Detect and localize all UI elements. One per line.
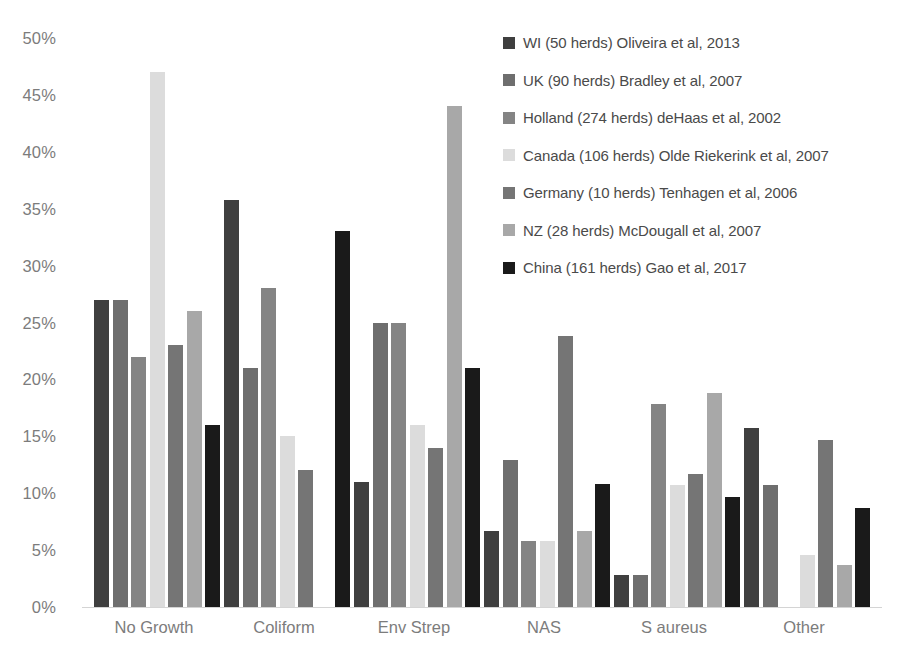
legend-item[interactable]: Holland (274 herds) deHaas et al, 2002	[503, 99, 898, 137]
bar	[725, 497, 740, 607]
legend-item[interactable]: Germany (10 herds) Tenhagen et al, 2006	[503, 174, 898, 212]
bar	[205, 425, 220, 607]
y-axis-tick-label: 45%	[22, 85, 56, 104]
bar	[837, 565, 852, 607]
legend-item[interactable]: WI (50 herds) Oliveira et al, 2013	[503, 24, 898, 62]
bar	[651, 404, 666, 607]
y-axis-tick-label: 40%	[22, 142, 56, 161]
legend-item-label: UK (90 herds) Bradley et al, 2007	[523, 72, 742, 89]
bar	[428, 448, 443, 607]
bar	[224, 200, 239, 607]
bar	[131, 357, 146, 607]
legend-item[interactable]: China (161 herds) Gao et al, 2017	[503, 249, 898, 287]
bar	[373, 323, 388, 608]
legend-item[interactable]: NZ (28 herds) McDougall et al, 2007	[503, 212, 898, 250]
legend-color-swatch	[503, 149, 515, 161]
bar	[614, 575, 629, 607]
bar	[558, 336, 573, 607]
bar-group-env-strep	[354, 38, 484, 607]
bar	[94, 300, 109, 607]
bar	[633, 575, 648, 607]
x-axis: No GrowthColiformEnv StrepNASS aureusOth…	[72, 612, 882, 652]
y-axis-tick-label: 30%	[22, 256, 56, 275]
legend-item-label: Holland (274 herds) deHaas et al, 2002	[523, 109, 781, 126]
y-axis-tick-label: 25%	[22, 313, 56, 332]
bar	[447, 106, 462, 607]
legend-color-swatch	[503, 37, 515, 49]
axis-baseline	[82, 607, 882, 608]
legend-item-label: China (161 herds) Gao et al, 2017	[523, 259, 747, 276]
bar	[595, 484, 610, 607]
bar	[744, 428, 759, 607]
bar	[800, 555, 815, 607]
y-axis-tick-label: 5%	[32, 541, 56, 560]
bar	[484, 531, 499, 607]
bar-chart: 50%45%40%35%30%25%20%15%10%5%0% No Growt…	[0, 0, 900, 655]
bar	[354, 482, 369, 607]
x-axis-category-label: Other	[783, 618, 824, 637]
bar	[243, 368, 258, 607]
legend-item[interactable]: Canada (106 herds) Olde Riekerink et al,…	[503, 137, 898, 175]
bar-group-no-growth	[94, 38, 224, 607]
y-axis: 50%45%40%35%30%25%20%15%10%5%0%	[0, 0, 62, 655]
bar	[465, 368, 480, 607]
legend-item-label: WI (50 herds) Oliveira et al, 2013	[523, 34, 740, 51]
bar	[577, 531, 592, 607]
bar	[707, 393, 722, 607]
y-axis-tick-label: 10%	[22, 484, 56, 503]
y-axis-tick-label: 15%	[22, 427, 56, 446]
x-axis-category-label: NAS	[527, 618, 561, 637]
bar	[670, 485, 685, 607]
chart-legend: WI (50 herds) Oliveira et al, 2013UK (90…	[503, 24, 898, 287]
bar	[818, 440, 833, 607]
legend-item[interactable]: UK (90 herds) Bradley et al, 2007	[503, 62, 898, 100]
bar-group-coliform	[224, 38, 354, 607]
bar	[763, 485, 778, 607]
bar	[503, 460, 518, 607]
bar	[298, 470, 313, 607]
legend-color-swatch	[503, 187, 515, 199]
bar	[335, 231, 350, 607]
legend-color-swatch	[503, 224, 515, 236]
bar	[280, 436, 295, 607]
legend-color-swatch	[503, 112, 515, 124]
bar	[521, 541, 536, 607]
legend-item-label: Canada (106 herds) Olde Riekerink et al,…	[523, 147, 829, 164]
x-axis-category-label: Env Strep	[378, 618, 450, 637]
bar	[261, 288, 276, 607]
x-axis-category-label: No Growth	[115, 618, 194, 637]
bar	[150, 72, 165, 607]
bar	[391, 323, 406, 608]
bar	[855, 508, 870, 607]
bar	[410, 425, 425, 607]
y-axis-tick-label: 35%	[22, 199, 56, 218]
bar	[187, 311, 202, 607]
legend-item-label: NZ (28 herds) McDougall et al, 2007	[523, 222, 761, 239]
y-axis-tick-label: 20%	[22, 370, 56, 389]
y-axis-tick-label: 50%	[22, 29, 56, 48]
bar	[688, 474, 703, 607]
x-axis-category-label: S aureus	[641, 618, 707, 637]
x-axis-category-label: Coliform	[253, 618, 314, 637]
legend-color-swatch	[503, 262, 515, 274]
bar	[168, 345, 183, 607]
legend-color-swatch	[503, 74, 515, 86]
bar	[540, 541, 555, 607]
y-axis-tick-label: 0%	[32, 598, 56, 617]
legend-item-label: Germany (10 herds) Tenhagen et al, 2006	[523, 184, 797, 201]
bar	[113, 300, 128, 607]
